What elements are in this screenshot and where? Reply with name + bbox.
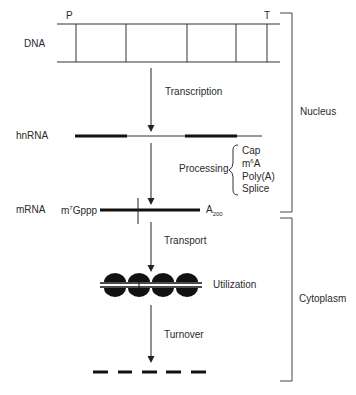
hnrna-label: hnRNA — [16, 131, 48, 141]
terminator-label: T — [264, 11, 270, 21]
cap-structure-label: m7Gppp — [61, 205, 97, 216]
arrow-turnover — [148, 305, 155, 363]
processing-brace — [229, 145, 238, 195]
ribosome — [152, 273, 174, 297]
dna-label: DNA — [24, 39, 45, 49]
turnover-label: Turnover — [164, 330, 204, 340]
nucleus-label: Nucleus — [300, 107, 336, 117]
arrow-processing — [148, 143, 155, 205]
transport-label: Transport — [164, 236, 206, 246]
dna-gene-box — [57, 24, 280, 62]
ribosome — [104, 273, 126, 297]
transcription-label: Transcription — [165, 87, 222, 97]
processing-m6a: m6A — [242, 158, 260, 169]
arrow-transport — [148, 222, 155, 272]
processing-label: Processing — [179, 164, 228, 174]
promoter-label: P — [66, 11, 73, 21]
nucleus-bracket — [280, 13, 292, 212]
utilization-label: Utilization — [213, 280, 256, 290]
polysome — [100, 273, 202, 297]
cytoplasm-label: Cytoplasm — [299, 294, 346, 304]
processing-polya: Poly(A) — [242, 172, 275, 182]
processing-splice: Splice — [242, 184, 269, 194]
ribosome — [176, 273, 198, 297]
polya-tail-label: A200 — [206, 205, 223, 217]
arrow-transcription — [148, 68, 155, 132]
mrna-label: mRNA — [16, 205, 45, 215]
cytoplasm-bracket — [280, 218, 292, 381]
processing-cap: Cap — [242, 146, 260, 156]
